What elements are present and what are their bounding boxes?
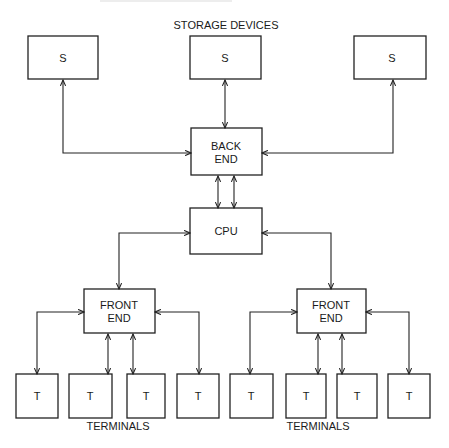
storage-device-right: S xyxy=(354,36,426,79)
storage-label: S xyxy=(388,52,395,64)
front-end-left-box: FRONT END xyxy=(84,289,155,333)
link-fe-right-terminal-1 xyxy=(250,312,297,374)
link-storage-left-backend xyxy=(63,80,191,153)
link-cpu-frontend-left xyxy=(119,233,190,289)
storage-label: S xyxy=(221,52,228,64)
front-end-right-line2: END xyxy=(319,312,342,324)
link-fe-left-terminal-4 xyxy=(155,312,199,374)
front-end-right-box: FRONT END xyxy=(297,289,366,333)
terminal-label: T xyxy=(143,390,150,402)
terminals-left-caption: TERMINALS xyxy=(87,420,150,432)
terminal-label: T xyxy=(87,390,94,402)
storage-device-left: S xyxy=(28,36,98,79)
scan-artifact xyxy=(100,0,232,2)
link-storage-right-backend xyxy=(262,80,393,153)
storage-devices-title: STORAGE DEVICES xyxy=(174,19,279,31)
terminal-label: T xyxy=(34,390,41,402)
terminal-label: T xyxy=(248,390,255,402)
terminals-right-group: T T T T xyxy=(230,374,430,418)
terminals-right-caption: TERMINALS xyxy=(287,420,350,432)
back-end-box: BACK END xyxy=(191,128,262,175)
storage-label: S xyxy=(59,52,66,64)
terminal-label: T xyxy=(195,390,202,402)
terminal-label: T xyxy=(303,390,310,402)
back-end-label-line1: BACK xyxy=(211,140,242,152)
link-fe-right-terminal-4 xyxy=(366,312,409,374)
front-end-left-line2: END xyxy=(107,312,130,324)
link-cpu-frontend-right xyxy=(262,233,331,289)
terminal-label: T xyxy=(406,390,413,402)
terminal-label: T xyxy=(354,390,361,402)
computer-architecture-diagram: STORAGE DEVICES S S S BACK END CPU FRONT… xyxy=(0,0,449,448)
back-end-label-line2: END xyxy=(214,153,237,165)
cpu-box: CPU xyxy=(190,208,262,254)
cpu-label: CPU xyxy=(214,225,237,237)
front-end-right-line1: FRONT xyxy=(312,299,350,311)
front-end-left-line1: FRONT xyxy=(100,299,138,311)
storage-device-center: S xyxy=(190,36,261,79)
terminals-left-group: T T T T xyxy=(16,374,219,418)
link-fe-left-terminal-1 xyxy=(37,312,84,374)
